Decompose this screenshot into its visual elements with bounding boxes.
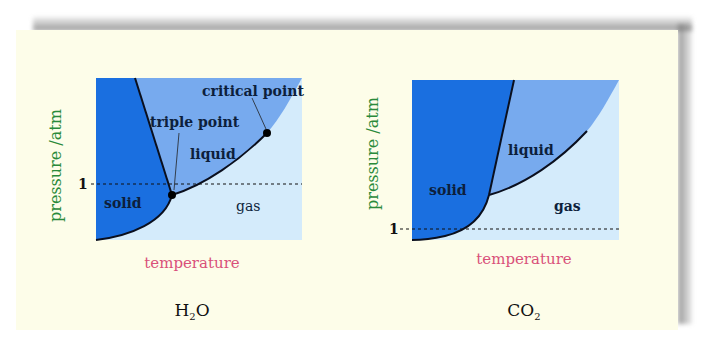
co2-gas-label: gas xyxy=(554,198,581,214)
h2o-critical-point-label: critical point xyxy=(202,83,304,99)
h2o-liquid-label: liquid xyxy=(190,146,236,162)
co2-phase-diagram: 1 liquid solid gas pressure /atm tempera… xyxy=(363,80,619,322)
h2o-critical-point-marker xyxy=(263,129,271,137)
co2-y-tick-1: 1 xyxy=(389,221,399,237)
h2o-triple-point-marker xyxy=(168,191,176,199)
h2o-solid-label: solid xyxy=(104,195,142,211)
h2o-caption: H2O xyxy=(174,300,209,322)
h2o-triple-point-label: triple point xyxy=(150,114,240,130)
co2-x-axis-label: temperature xyxy=(476,250,572,268)
co2-y-axis-label: pressure /atm xyxy=(363,97,382,210)
h2o-y-axis-label: pressure /atm xyxy=(46,109,65,222)
h2o-y-tick-1: 1 xyxy=(78,176,88,192)
phase-diagrams: 1 critical point triple point liquid sol… xyxy=(0,0,708,343)
h2o-x-axis-label: temperature xyxy=(144,254,240,272)
h2o-gas-label: gas xyxy=(236,198,261,214)
co2-solid-label: solid xyxy=(429,182,467,198)
h2o-phase-diagram: 1 critical point triple point liquid sol… xyxy=(46,78,304,322)
co2-liquid-label: liquid xyxy=(508,142,554,158)
co2-caption: CO2 xyxy=(507,300,540,322)
